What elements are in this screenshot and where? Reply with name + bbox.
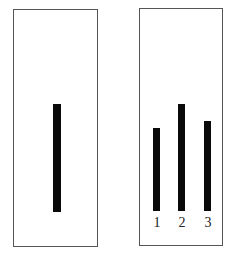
standard-line-card <box>13 9 98 247</box>
comparison-line-3 <box>204 121 211 211</box>
comparison-label-1: 1 <box>150 215 164 231</box>
comparison-line-1 <box>153 128 160 211</box>
comparison-line-2 <box>178 104 185 211</box>
standard-line <box>53 104 61 212</box>
comparison-lines-card: 1 2 3 <box>139 8 223 246</box>
comparison-label-3: 3 <box>201 215 215 231</box>
comparison-label-2: 2 <box>175 215 189 231</box>
